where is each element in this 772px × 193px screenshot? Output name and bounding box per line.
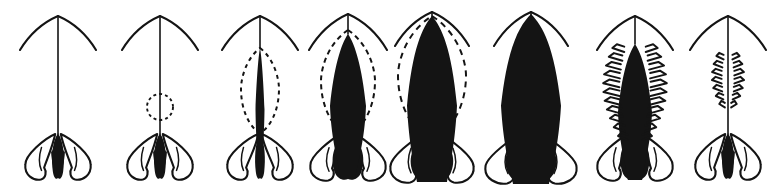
hatch-rib xyxy=(734,61,743,68)
panel-stage-7 xyxy=(597,16,673,181)
hatch-rib xyxy=(609,53,623,61)
panel-stage-3 xyxy=(222,16,298,180)
panel-stage-5 xyxy=(390,12,473,183)
hatch-rib xyxy=(648,53,662,61)
hatch-rib xyxy=(604,71,620,79)
hatch-rib xyxy=(650,97,666,105)
hatch-rib xyxy=(650,71,666,79)
base-lobe-right xyxy=(262,134,293,180)
hatch-rib xyxy=(712,77,722,84)
hatch-rib xyxy=(716,93,723,100)
figure-container: Developmental series of eight stages xyxy=(0,0,772,193)
hatch-rib xyxy=(605,97,621,105)
panel-stage-1 xyxy=(20,16,96,180)
body-mass xyxy=(407,16,457,182)
hatch-rib xyxy=(714,61,723,68)
hatch-rib xyxy=(734,85,743,92)
panel-stage-6 xyxy=(485,12,576,184)
hatch-rib xyxy=(651,88,667,96)
hatch-rib xyxy=(731,101,737,108)
panel-stage-2 xyxy=(122,16,198,180)
body-mass xyxy=(501,14,561,184)
hatch-rib xyxy=(734,77,744,84)
hatch-rib xyxy=(612,44,624,52)
panel-stage-4 xyxy=(309,14,387,181)
hatch-rib xyxy=(734,69,744,76)
hatch-rib xyxy=(732,53,739,60)
hatch-rib xyxy=(712,69,722,76)
hatch-rib xyxy=(733,93,740,100)
hatch-rib xyxy=(713,85,722,92)
hatch-rib xyxy=(603,80,619,88)
hatch-rib xyxy=(606,62,621,70)
hatch-rib xyxy=(646,44,658,52)
stage-series-illustration xyxy=(0,0,772,193)
hatch-rib xyxy=(716,53,723,60)
base-lobe-left xyxy=(227,134,258,180)
hatch-rib xyxy=(719,101,725,108)
hatch-rib xyxy=(649,62,664,70)
hatch-rib xyxy=(651,80,667,88)
hatch-rib xyxy=(603,88,619,96)
panel-stage-8 xyxy=(690,16,766,180)
